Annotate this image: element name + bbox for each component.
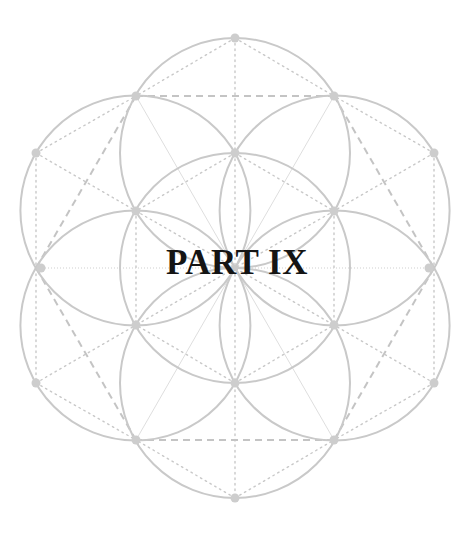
page-title: PART IX: [0, 243, 474, 283]
